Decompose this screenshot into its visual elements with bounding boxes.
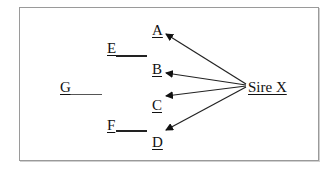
node-e-label: E bbox=[107, 40, 116, 56]
node-f-label: F bbox=[107, 117, 115, 133]
sire-x-label: Sire X bbox=[248, 79, 287, 95]
arrow-sire-to-c bbox=[166, 86, 246, 96]
arrow-sire-to-a bbox=[166, 34, 246, 84]
node-b-label: B bbox=[152, 61, 162, 77]
arrow-sire-to-b bbox=[166, 73, 246, 85]
node-c-label: C bbox=[152, 97, 162, 113]
node-g-label: G bbox=[60, 79, 71, 95]
arrow-sire-to-d bbox=[166, 87, 246, 130]
node-a-label: A bbox=[152, 22, 163, 38]
node-g-line bbox=[71, 94, 102, 95]
node-e-line bbox=[116, 55, 147, 57]
node-f-line bbox=[116, 130, 147, 132]
node-d-label: D bbox=[152, 134, 163, 150]
